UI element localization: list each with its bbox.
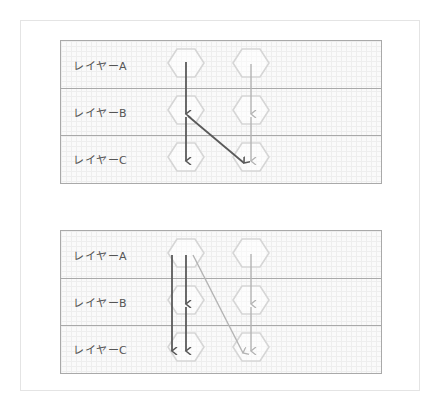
diagram-graph-1 [61, 41, 383, 185]
layer-diagram-2: レイヤーA レイヤーB レイヤーC [60, 230, 382, 374]
layer-diagram-1: レイヤーA レイヤーB レイヤーC [60, 40, 382, 184]
diagram-graph-2 [61, 231, 383, 375]
